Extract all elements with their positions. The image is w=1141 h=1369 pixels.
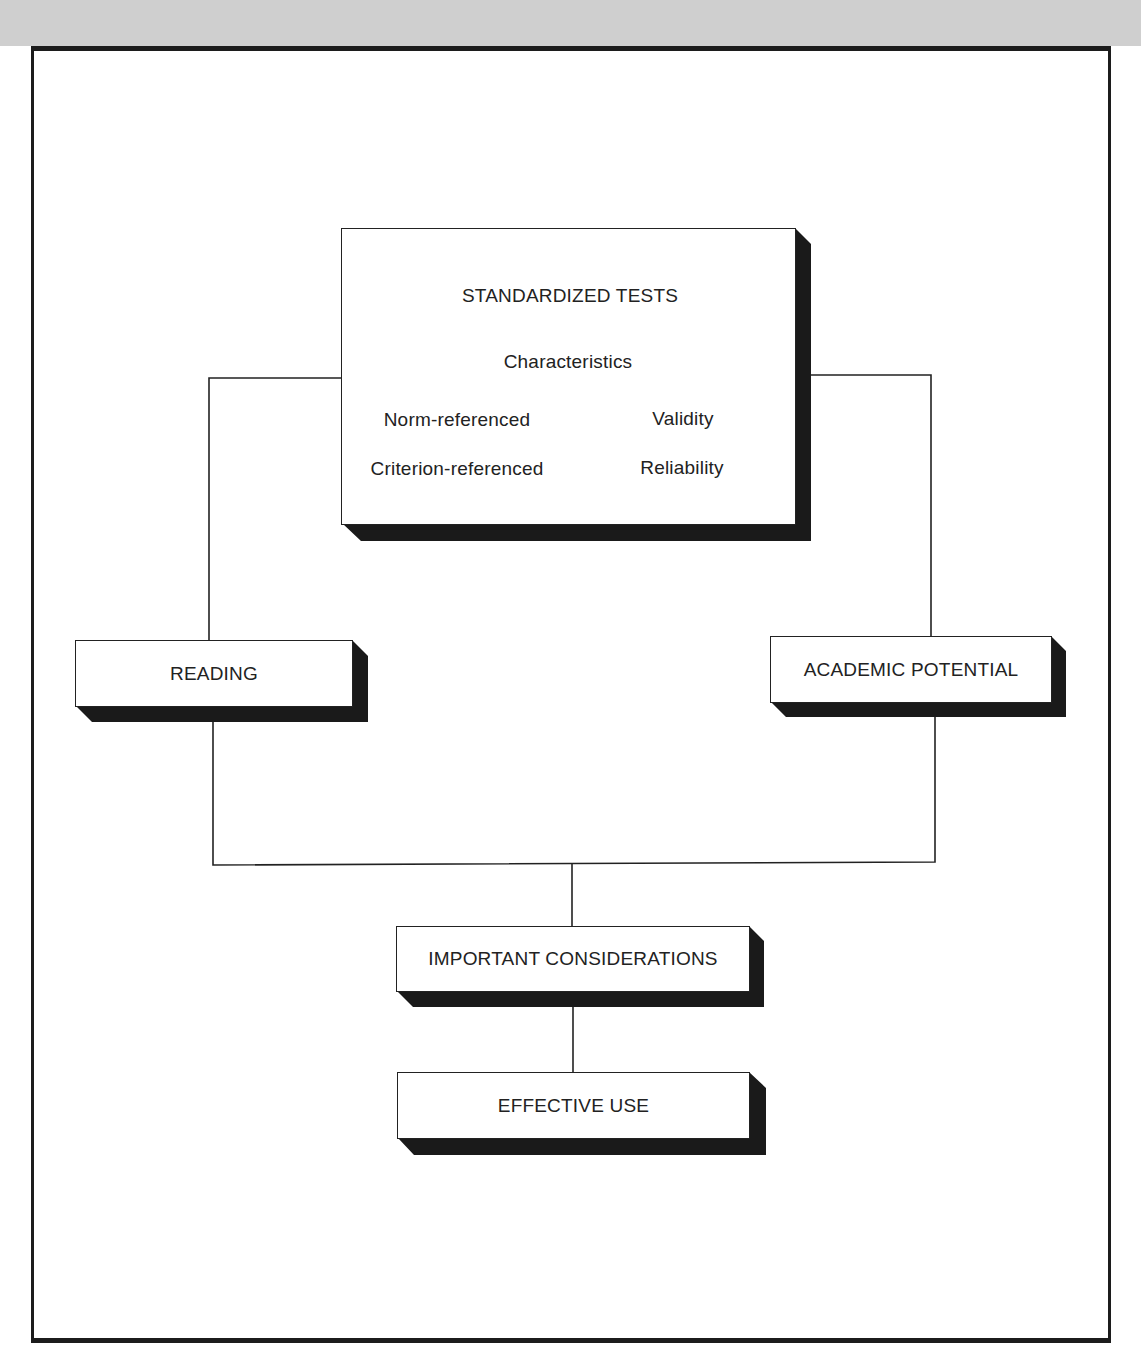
connector-main-to-reading bbox=[209, 378, 341, 641]
connector-main-to-academic bbox=[811, 375, 931, 637]
important-considerations-label: IMPORTANT CONSIDERATIONS bbox=[428, 948, 717, 970]
standardized-tests-box: STANDARDIZED TESTS Characteristics Norm-… bbox=[341, 228, 796, 525]
reading-label: READING bbox=[170, 663, 258, 685]
important-considerations-box: IMPORTANT CONSIDERATIONS bbox=[396, 926, 750, 992]
validity-label: Validity bbox=[652, 408, 713, 430]
reading-box: READING bbox=[75, 640, 353, 707]
connector-bottom-join bbox=[213, 717, 935, 865]
academic-potential-box: ACADEMIC POTENTIAL bbox=[770, 636, 1052, 703]
effective-use-label: EFFECTIVE USE bbox=[498, 1095, 649, 1117]
criterion-referenced-label: Criterion-referenced bbox=[371, 458, 544, 480]
academic-potential-label: ACADEMIC POTENTIAL bbox=[804, 659, 1019, 681]
main-subtitle: Characteristics bbox=[504, 351, 633, 373]
reliability-label: Reliability bbox=[640, 457, 724, 479]
effective-use-box: EFFECTIVE USE bbox=[397, 1072, 750, 1139]
norm-referenced-label: Norm-referenced bbox=[384, 409, 531, 431]
main-title: STANDARDIZED TESTS bbox=[462, 285, 678, 307]
